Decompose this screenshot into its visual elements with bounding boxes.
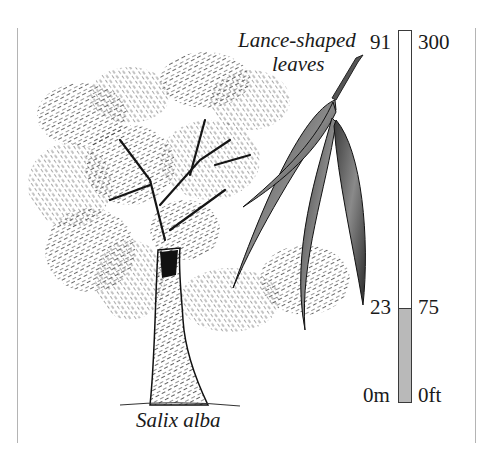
leaf-callout-line2: leaves (272, 54, 324, 75)
scale-imperial-marker: 75 (418, 297, 439, 318)
scale-metric-top: 91 (370, 32, 391, 53)
leaf-callout-line1: Lance-shaped (238, 30, 356, 51)
height-scale-bar (398, 30, 412, 403)
scale-imperial-top: 300 (418, 32, 450, 53)
height-scale-fill (399, 308, 411, 402)
species-label: Salix alba (136, 410, 221, 431)
scale-metric-bottom: 0m (363, 385, 390, 406)
trunk-icon (150, 248, 208, 405)
scale-metric-marker: 23 (370, 297, 391, 318)
willow-tree-icon (0, 0, 485, 457)
scale-imperial-bottom: 0ft (418, 385, 441, 406)
